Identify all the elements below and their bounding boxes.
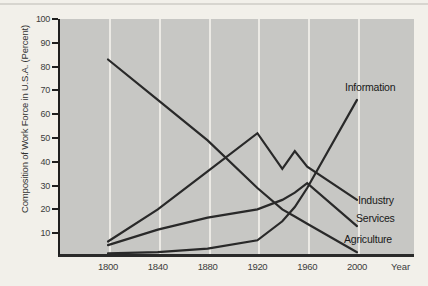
y-tick-label-30: 30 [28, 181, 50, 191]
y-tick-90 [52, 42, 58, 44]
x-tick-label-1920: 1920 [240, 261, 274, 272]
line-agriculture [108, 60, 357, 253]
line-services [108, 183, 357, 245]
x-tick-label-1840: 1840 [141, 261, 175, 272]
y-tick-80 [52, 66, 58, 68]
y-tick-label-70: 70 [28, 85, 50, 95]
y-tick-10 [52, 232, 58, 234]
series-label-services: Services [356, 212, 395, 224]
x-tick-label-1800: 1800 [91, 261, 125, 272]
x-tick-label-1960: 1960 [290, 261, 324, 272]
y-tick-label-60: 60 [28, 109, 50, 119]
x-tick-label-1880: 1880 [191, 261, 225, 272]
series-label-agriculture: Agriculture [344, 233, 392, 245]
y-tick-70 [52, 89, 58, 91]
workforce-composition-chart: Composition of Work Force in U.S.A. (Per… [0, 0, 428, 286]
line-industry [108, 133, 357, 241]
y-tick-30 [52, 185, 58, 187]
y-tick-label-20: 20 [28, 204, 50, 214]
y-tick-label-10: 10 [28, 228, 50, 238]
y-tick-label-80: 80 [28, 62, 50, 72]
y-tick-60 [52, 113, 58, 115]
y-tick-label-100: 100 [28, 14, 50, 24]
x-tick-label-2000: 2000 [340, 261, 374, 272]
y-tick-label-90: 90 [28, 38, 50, 48]
y-tick-50 [52, 137, 58, 139]
y-tick-20 [52, 208, 58, 210]
y-tick-40 [52, 161, 58, 163]
series-label-information: Information [345, 81, 395, 93]
y-tick-100 [52, 18, 58, 20]
y-tick-label-50: 50 [28, 133, 50, 143]
series-label-industry: Industry [358, 194, 394, 206]
y-tick-label-40: 40 [28, 157, 50, 167]
